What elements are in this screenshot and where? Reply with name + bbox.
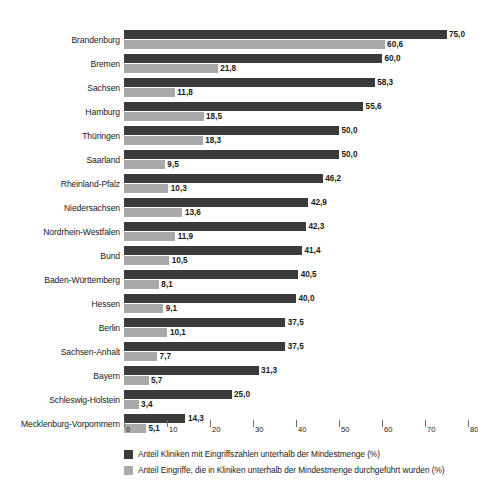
bar-group-light: 60,6	[124, 40, 468, 49]
bar-group-dark: 31,3	[124, 366, 468, 375]
legend-swatch-icon	[124, 466, 133, 475]
bar-light	[124, 256, 169, 265]
category-label: Hessen	[0, 294, 120, 314]
category-label: Sachsen-Anhalt	[0, 342, 120, 362]
tick-label: 60	[384, 425, 392, 435]
bar-dark	[124, 198, 308, 207]
category-label: Bayern	[0, 366, 120, 386]
bar-group-light: 5,7	[124, 376, 468, 385]
chart-row: Sachsen58,311,8	[0, 76, 466, 100]
bar-light	[124, 64, 218, 73]
bar-dark	[124, 294, 296, 303]
tick-label: 10	[169, 425, 177, 435]
bar-group-light: 18,5	[124, 112, 468, 121]
tick-mark	[425, 420, 426, 427]
category-label: Saarland	[0, 150, 120, 170]
chart-row: Saarland50,09,5	[0, 148, 466, 172]
tick-label: 20	[212, 425, 220, 435]
bar-light	[124, 376, 149, 385]
bar-group-dark: 75,0	[124, 30, 468, 39]
bar-dark	[124, 126, 339, 135]
category-label: Baden-Württemberg	[0, 270, 120, 290]
bar-group-light: 9,5	[124, 160, 468, 169]
bar-value-label: 60,6	[385, 38, 403, 51]
bar-light	[124, 40, 385, 49]
chart-row: Thüringen50,018,3	[0, 124, 466, 148]
bar-light	[124, 184, 168, 193]
bar-group-dark: 25,0	[124, 390, 468, 399]
bar-group-light: 7,7	[124, 352, 468, 361]
bar-dark	[124, 270, 298, 279]
bar-group-light: 10,5	[124, 256, 468, 265]
tick-mark	[210, 420, 211, 427]
tick-mark	[253, 420, 254, 427]
bar-group-dark: 55,6	[124, 102, 468, 111]
bar-light	[124, 304, 163, 313]
category-label: Nordrhein-Westfalen	[0, 222, 120, 242]
tick-mark	[468, 420, 469, 427]
bar-group-light: 8,1	[124, 280, 468, 289]
bar-dark	[124, 222, 306, 231]
tick-mark	[167, 420, 168, 427]
tick-label: 70	[427, 425, 435, 435]
bar-value-label: 11,8	[175, 86, 193, 99]
bar-group-dark: 50,0	[124, 126, 468, 135]
category-label: Bund	[0, 246, 120, 266]
bar-light	[124, 136, 203, 145]
category-label: Schleswig-Holstein	[0, 390, 120, 410]
bar-value-label: 9,5	[165, 158, 179, 171]
bar-dark	[124, 78, 375, 87]
bar-group-dark: 37,5	[124, 342, 468, 351]
chart-row: Hessen40,09,1	[0, 292, 466, 316]
bar-dark	[124, 102, 363, 111]
category-label: Thüringen	[0, 126, 120, 146]
category-label: Brandenburg	[0, 30, 120, 50]
tick-label: 0	[126, 425, 130, 435]
tick-mark	[382, 420, 383, 427]
bar-group-light: 13,6	[124, 208, 468, 217]
bar-dark	[124, 174, 323, 183]
bar-group-light: 11,9	[124, 232, 468, 241]
bar-dark	[124, 54, 382, 63]
bar-group-light: 3,4	[124, 400, 468, 409]
category-label: Hamburg	[0, 102, 120, 122]
bar-value-label: 9,1	[163, 302, 177, 315]
bar-light	[124, 88, 175, 97]
bar-group-light: 18,3	[124, 136, 468, 145]
tick-label: 50	[341, 425, 349, 435]
tick-mark	[339, 420, 340, 427]
category-label: Rheinland-Pfalz	[0, 174, 120, 194]
bar-value-label: 8,1	[159, 278, 173, 291]
x-axis: 01020304050607080	[0, 420, 466, 440]
bar-group-light: 21,8	[124, 64, 468, 73]
bar-value-label: 21,8	[218, 62, 236, 75]
bar-group-light: 11,8	[124, 88, 468, 97]
bar-dark	[124, 366, 259, 375]
legend-label: Anteil Eingriffe, die in Kliniken unterh…	[138, 464, 445, 476]
bar-value-label: 10,5	[169, 254, 187, 267]
category-label: Berlin	[0, 318, 120, 338]
tick-label: 40	[298, 425, 306, 435]
chart-row: Bremen60,021,8	[0, 52, 466, 76]
chart-legend: Anteil Kliniken mit Eingriffszahlen unte…	[124, 446, 466, 478]
legend-item: Anteil Eingriffe, die in Kliniken unterh…	[124, 462, 466, 478]
bar-light	[124, 208, 182, 217]
bar-dark	[124, 318, 285, 327]
tick-label: 30	[255, 425, 263, 435]
bar-group-dark: 60,0	[124, 54, 468, 63]
plot-area: Brandenburg75,060,6Bremen60,021,8Sachsen…	[0, 28, 466, 420]
tick-mark	[296, 420, 297, 427]
bar-value-label: 3,4	[139, 398, 153, 411]
tick-mark	[124, 420, 125, 427]
bar-value-label: 18,3	[203, 134, 221, 147]
legend-swatch-icon	[124, 450, 133, 459]
chart-row: Schleswig-Holstein25,03,4	[0, 388, 466, 412]
chart-row: Niedersachsen42,913,6	[0, 196, 466, 220]
bar-group-light: 9,1	[124, 304, 468, 313]
bar-group-dark: 40,5	[124, 270, 468, 279]
chart-row: Nordrhein-Westfalen42,311,9	[0, 220, 466, 244]
chart-row: Rheinland-Pfalz46,210,3	[0, 172, 466, 196]
bar-value-label: 10,1	[167, 326, 185, 339]
bar-value-label: 7,7	[157, 350, 171, 363]
